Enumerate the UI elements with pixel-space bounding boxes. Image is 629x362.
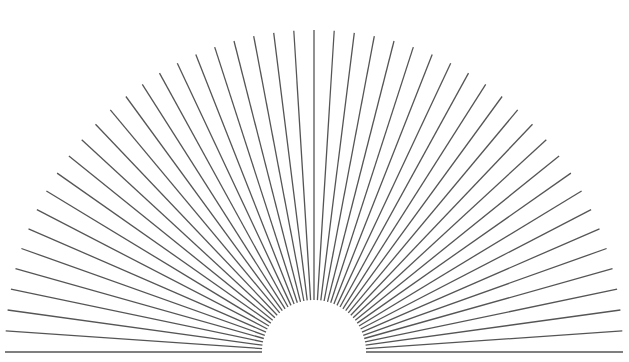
ray-line <box>363 249 606 336</box>
ray-line <box>196 55 294 305</box>
ray-line <box>334 55 432 305</box>
ray-line <box>215 47 298 303</box>
ray-line <box>126 97 282 311</box>
ray-line <box>82 140 275 318</box>
sunburst-diagram <box>0 0 629 362</box>
ray-line <box>21 249 264 336</box>
ray-line <box>110 110 279 313</box>
ray-line <box>355 156 559 320</box>
ray-line <box>362 229 600 332</box>
ray-line <box>69 156 273 320</box>
ray-line <box>346 97 502 311</box>
ray-line <box>348 110 517 313</box>
ray-group <box>5 30 623 352</box>
ray-line <box>29 229 267 332</box>
ray-line <box>353 140 546 318</box>
ray-line <box>331 47 414 303</box>
